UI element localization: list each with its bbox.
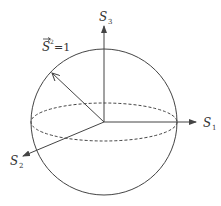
svg-text:S: S [10, 154, 18, 168]
svg-text:S: S [203, 116, 211, 130]
svg-text:S: S [42, 40, 50, 54]
s3-label: S 3 [99, 10, 112, 26]
s1-label: S 1 [203, 116, 216, 132]
svg-text:=1: =1 [54, 41, 70, 54]
state-vector [52, 73, 104, 122]
svg-text:2: 2 [19, 162, 23, 170]
poincare-sphere-diagram: S 3 S 1 S 2 S 2 =1 [0, 0, 221, 206]
norm-equation: S 2 =1 [42, 38, 70, 55]
svg-text:3: 3 [108, 18, 112, 26]
s2-axis [23, 122, 104, 156]
svg-text:S: S [99, 10, 107, 24]
s2-label: S 2 [10, 154, 23, 170]
svg-text:1: 1 [212, 124, 216, 132]
